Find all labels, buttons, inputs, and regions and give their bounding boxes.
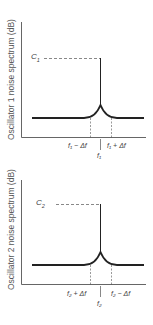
spectrum-plot-2 xyxy=(0,160,153,325)
center-label-f1: f₁ xyxy=(97,152,101,159)
tick-label-left-1: f₁ − Δf xyxy=(68,142,87,149)
tick-label-right-1: f₁ + Δf xyxy=(107,142,126,149)
peak-label-sub: 1 xyxy=(37,57,40,63)
tick-label-left-2: f₂ + Δf xyxy=(67,290,86,297)
tick-label-right-2: f₂ − Δf xyxy=(111,290,130,297)
peak-label-c1: C1 xyxy=(31,52,40,63)
center-label-f2: f₂ xyxy=(97,300,102,307)
peak-label-sub: 2 xyxy=(42,203,45,209)
oscillator-1-spectrum-chart: Oscillator 1 noise spectrum (dB) C1 f₁ −… xyxy=(0,0,153,165)
spectrum-plot-1 xyxy=(0,0,153,165)
y-axis-label-1: Oscillator 1 noise spectrum (dB) xyxy=(6,19,16,140)
y-axis-label-2: Oscillator 2 noise spectrum (dB) xyxy=(6,169,16,290)
oscillator-2-spectrum-chart: Oscillator 2 noise spectrum (dB) C2 f₂ +… xyxy=(0,160,153,325)
peak-label-c2: C2 xyxy=(36,198,45,209)
